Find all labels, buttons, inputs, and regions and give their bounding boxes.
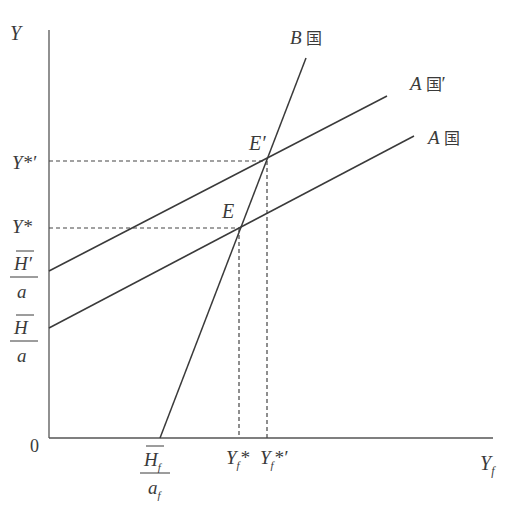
figure-title-clipped: [40, 0, 280, 3]
label-country-b: B国: [290, 27, 322, 48]
svg-text:H′: H′: [13, 253, 33, 274]
svg-text:a: a: [17, 345, 27, 366]
origin-label: 0: [30, 436, 39, 456]
svg-text:Hf: Hf: [143, 449, 163, 473]
line-country-a: [49, 136, 414, 328]
label-country-a-prime: A国′: [408, 73, 446, 94]
line-country-b: [160, 58, 306, 438]
svg-text:H: H: [13, 317, 29, 338]
y-tick-y-star-prime: Y*′: [12, 152, 37, 173]
y-tick-y-star: Y*: [12, 216, 33, 237]
x-tick-hf-over-af: Hf af: [140, 446, 170, 501]
x-tick-yf-star-prime: Yf*′: [260, 447, 288, 471]
y-axis-label: Y: [10, 22, 23, 44]
equilibrium-diagram: Y 0 Yf Y*′ Y* H′ a H a Hf af Yf* Yf*′ B国: [0, 0, 508, 509]
point-label-e-prime: E′: [248, 132, 266, 154]
point-label-e: E: [221, 200, 234, 222]
x-axis-label: Yf: [480, 452, 496, 478]
x-tick-yf-star: Yf*: [226, 447, 250, 471]
label-country-a: A国: [426, 127, 460, 148]
svg-text:a: a: [17, 281, 27, 302]
y-tick-h-over-a: H a: [10, 315, 38, 366]
line-country-a-prime: [49, 96, 387, 271]
svg-text:af: af: [148, 477, 163, 501]
y-tick-h-prime-over-a: H′ a: [10, 251, 38, 302]
